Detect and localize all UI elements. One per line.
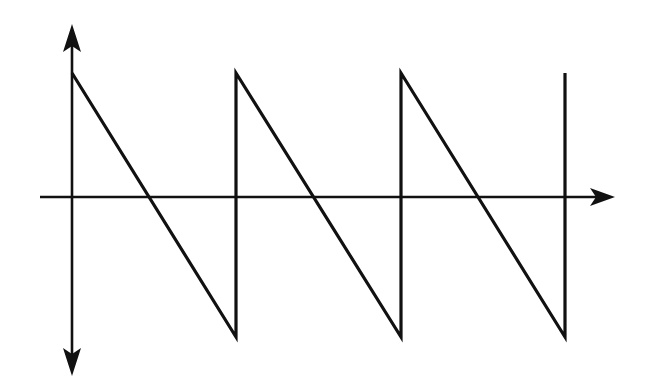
sawtooth-waveform xyxy=(72,73,565,337)
sawtooth-diagram xyxy=(0,0,646,392)
axes xyxy=(40,24,615,376)
